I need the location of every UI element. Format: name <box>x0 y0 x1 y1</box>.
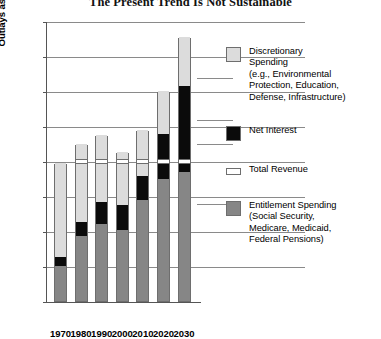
total-revenue-marker-2010 <box>137 159 148 164</box>
total-revenue-marker-1980 <box>76 159 87 164</box>
bar-2020[interactable] <box>157 92 170 302</box>
bar-segment-1970-entitlement-spending <box>55 266 66 301</box>
legend-label-total-revenue: Total Revenue <box>249 164 308 175</box>
bar-segment-1990-discretionary-spending <box>96 135 107 202</box>
y-axis-title: Outlays as a Percentage of Gross Domesti… <box>0 0 7 48</box>
bar-segment-2000-net-interest <box>117 205 128 230</box>
x-tick-label-2030: 2030 <box>164 329 204 339</box>
bar-segment-2020-discretionary-spending <box>158 91 169 134</box>
bar-segment-2000-entitlement-spending <box>117 230 128 301</box>
bar-segment-1980-discretionary-spending <box>76 144 87 222</box>
legend-swatch-discretionary-icon <box>226 47 241 62</box>
leader-line-2 <box>197 144 233 145</box>
bar-2010[interactable] <box>136 131 149 302</box>
bar-1980[interactable] <box>75 145 88 303</box>
total-revenue-marker-2020 <box>158 159 169 164</box>
bar-segment-2020-net-interest <box>158 134 169 178</box>
legend-label-discretionary: Discretionary Spending (e.g., Environmen… <box>249 46 345 103</box>
y-tick-mark-15 <box>43 197 47 198</box>
legend-item-net-interest[interactable]: Net Interest <box>226 125 296 141</box>
bar-segment-1990-net-interest <box>96 202 107 224</box>
y-tick-mark-0 <box>43 302 47 303</box>
gridline-40 <box>47 22 305 23</box>
y-tick-mark-25 <box>43 127 47 128</box>
bar-2000[interactable] <box>116 153 129 302</box>
bar-segment-1970-discretionary-spending <box>55 163 66 257</box>
bar-segment-2020-entitlement-spending <box>158 179 169 302</box>
y-tick-mark-40 <box>43 22 47 23</box>
legend-item-total-revenue[interactable]: Total Revenue <box>226 164 308 175</box>
bar-segment-2010-discretionary-spending <box>137 130 148 176</box>
bar-segment-1970-net-interest <box>55 257 66 266</box>
bar-segment-1980-net-interest <box>76 222 87 236</box>
y-tick-mark-30 <box>43 92 47 93</box>
bar-2030[interactable] <box>178 38 191 302</box>
bar-1990[interactable] <box>95 136 108 302</box>
bar-segment-2030-discretionary-spending <box>179 37 190 86</box>
chart-title: The Present Trend Is Not Sustainable <box>0 0 381 10</box>
total-revenue-marker-2030 <box>179 159 190 164</box>
legend-item-entitlement[interactable]: Entitlement Spending (Social Security, M… <box>226 200 336 246</box>
legend-swatch-net-interest-icon <box>226 126 241 141</box>
bar-segment-1990-entitlement-spending <box>96 224 107 301</box>
total-revenue-marker-1990 <box>96 159 107 164</box>
y-tick-mark-35 <box>43 57 47 58</box>
y-tick-mark-20 <box>43 162 47 163</box>
y-tick-mark-5 <box>43 267 47 268</box>
legend-item-discretionary[interactable]: Discretionary Spending (e.g., Environmen… <box>226 46 345 103</box>
plot-area: 4035302520151050 19701980199020002010202… <box>46 22 201 303</box>
bar-segment-2030-entitlement-spending <box>179 172 190 301</box>
total-revenue-marker-2000 <box>117 159 128 164</box>
bar-segment-1980-entitlement-spending <box>76 236 87 301</box>
y-tick-mark-10 <box>43 232 47 233</box>
legend-label-net-interest: Net Interest <box>249 125 296 136</box>
legend-label-entitlement: Entitlement Spending (Social Security, M… <box>249 200 336 246</box>
legend-swatch-entitlement-icon <box>226 201 241 216</box>
bar-1970[interactable] <box>54 164 67 302</box>
bar-segment-2010-entitlement-spending <box>137 200 148 301</box>
leader-line-3 <box>197 162 233 163</box>
bar-segment-2010-net-interest <box>137 176 148 200</box>
legend-swatch-total-revenue-icon <box>226 168 241 175</box>
leader-line-1 <box>197 120 233 121</box>
